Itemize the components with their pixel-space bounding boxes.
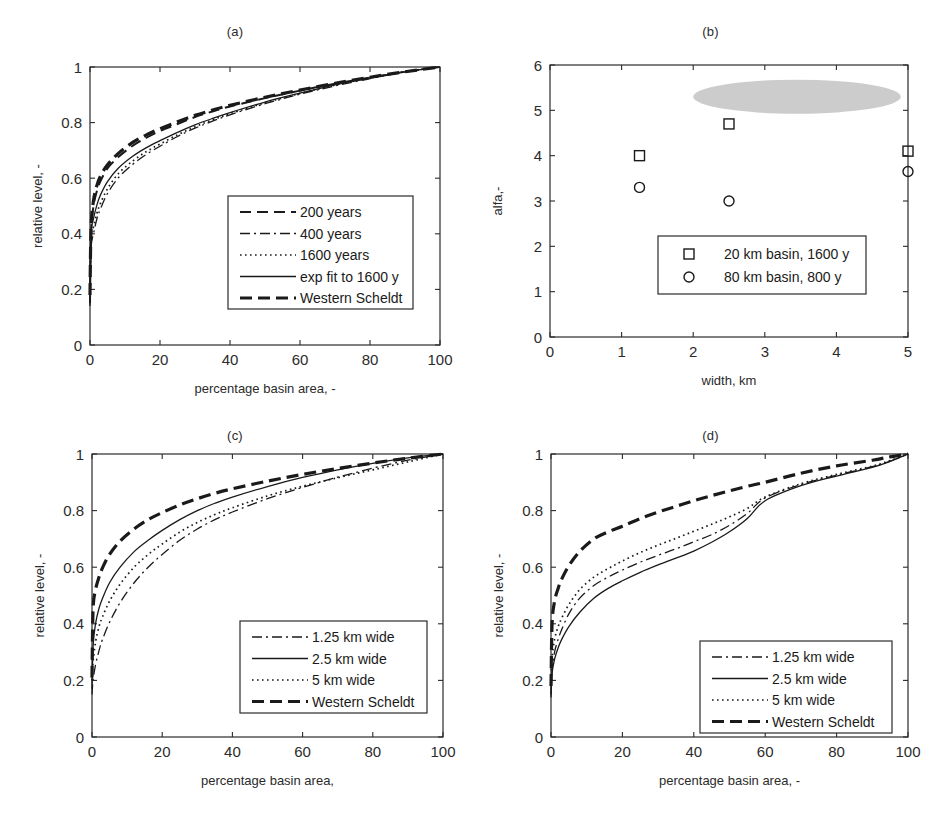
ytick-label-c-2: 0.4 <box>63 615 84 632</box>
ytick-label-d-4: 0.8 <box>522 502 543 519</box>
xtick-label-a-3: 60 <box>292 351 309 368</box>
legend-label-d-3: Western Scheldt <box>772 714 875 730</box>
panel-c-plot-area: 02040608010000.20.40.60.81percentage bas… <box>32 446 456 789</box>
marker-square-b-0-1 <box>724 119 734 129</box>
panel-a-plot-area: 02040608010000.20.40.60.81percentage bas… <box>30 59 453 397</box>
xaxis-label-b: width, km <box>701 373 757 388</box>
legend-label-d-2: 5 km wide <box>772 692 835 708</box>
legend-label-a-4: Western Scheldt <box>300 290 403 306</box>
ytick-label-b-6: 6 <box>534 57 542 74</box>
xtick-label-b-5: 5 <box>904 343 912 360</box>
xtick-label-d-2: 40 <box>685 743 702 760</box>
xtick-label-c-3: 60 <box>294 743 311 760</box>
legend-box-b <box>658 236 866 294</box>
panel-c-axes: 02040608010000.20.40.60.81percentage bas… <box>0 410 470 820</box>
xtick-label-a-0: 0 <box>86 351 94 368</box>
panel-c: (c) 02040608010000.20.40.60.81percentage… <box>0 410 470 820</box>
marker-circle-b-1-0 <box>635 182 645 192</box>
panel-d: (d) 02040608010000.20.40.60.81percentage… <box>470 410 951 820</box>
figure-canvas: (a) 02040608010000.20.40.60.81percentage… <box>0 0 951 820</box>
yaxis-label-a: relative level, - <box>30 164 45 248</box>
ytick-label-c-5: 1 <box>76 446 84 463</box>
legend-label-c-0: 1.25 km wide <box>312 629 395 645</box>
xtick-label-a-1: 20 <box>152 351 169 368</box>
xtick-label-c-2: 40 <box>224 743 241 760</box>
legend-label-b-0: 20 km basin, 1600 y <box>724 246 849 262</box>
xtick-label-a-4: 80 <box>362 351 379 368</box>
xtick-label-b-3: 3 <box>761 343 769 360</box>
ytick-label-c-3: 0.6 <box>63 559 84 576</box>
xtick-label-c-4: 80 <box>364 743 381 760</box>
ytick-label-d-0: 0 <box>535 729 543 746</box>
ytick-label-a-0: 0 <box>74 337 82 354</box>
ytick-label-b-0: 0 <box>534 329 542 346</box>
ytick-label-d-3: 0.6 <box>522 559 543 576</box>
shaded-region-ellipse-b-0 <box>693 80 901 114</box>
ytick-label-c-1: 0.2 <box>63 672 84 689</box>
ytick-label-b-3: 3 <box>534 193 542 210</box>
xaxis-label-a: percentage basin area, - <box>195 381 336 396</box>
xtick-label-d-1: 20 <box>614 743 631 760</box>
ytick-label-a-2: 0.4 <box>61 225 82 242</box>
xtick-label-d-5: 100 <box>895 743 920 760</box>
legend-label-a-2: 1600 years <box>300 247 369 263</box>
ytick-label-c-4: 0.8 <box>63 502 84 519</box>
xtick-label-c-5: 100 <box>430 743 455 760</box>
legend-label-c-3: Western Scheldt <box>312 694 415 710</box>
xtick-label-c-1: 20 <box>154 743 171 760</box>
panel-b: (b) 0123450123456width, kmalfa,-20 km ba… <box>470 0 951 410</box>
legend-label-d-0: 1.25 km wide <box>772 649 855 665</box>
xtick-label-d-4: 80 <box>828 743 845 760</box>
xaxis-label-d: percentage basin area, - <box>659 773 800 788</box>
ytick-label-a-4: 0.8 <box>61 114 82 131</box>
xtick-label-d-0: 0 <box>547 743 555 760</box>
xtick-label-b-4: 4 <box>832 343 840 360</box>
ytick-label-c-0: 0 <box>76 729 84 746</box>
xtick-label-b-1: 1 <box>617 343 625 360</box>
legend-label-a-3: exp fit to 1600 y <box>300 269 399 285</box>
ytick-label-a-3: 0.6 <box>61 170 82 187</box>
yaxis-label-c: relative level, - <box>32 554 47 638</box>
ytick-label-b-5: 5 <box>534 102 542 119</box>
xtick-label-b-2: 2 <box>689 343 697 360</box>
legend-label-b-1: 80 km basin, 800 y <box>724 269 842 285</box>
xtick-label-a-2: 40 <box>222 351 239 368</box>
xtick-label-d-3: 60 <box>757 743 774 760</box>
marker-square-b-0-0 <box>635 151 645 161</box>
legend-label-a-0: 200 years <box>300 204 361 220</box>
xtick-label-b-0: 0 <box>546 343 554 360</box>
yaxis-label-d: relative level, - <box>491 554 506 638</box>
yaxis-label-b: alfa,- <box>490 187 505 216</box>
marker-circle-b-1-1 <box>724 196 734 206</box>
legend-label-a-1: 400 years <box>300 226 361 242</box>
xaxis-label-c: percentage basin area, <box>201 773 334 788</box>
legend-label-c-1: 2.5 km wide <box>312 651 387 667</box>
ytick-label-a-5: 1 <box>74 59 82 76</box>
panel-b-plot-area: 0123450123456width, kmalfa,-20 km basin,… <box>490 57 913 389</box>
xtick-label-a-5: 100 <box>427 351 452 368</box>
legend-label-d-1: 2.5 km wide <box>772 671 847 687</box>
ytick-label-b-1: 1 <box>534 283 542 300</box>
ytick-label-b-4: 4 <box>534 147 542 164</box>
legend-label-c-2: 5 km wide <box>312 672 375 688</box>
panel-d-plot-area: 02040608010000.20.40.60.81percentage bas… <box>491 446 921 789</box>
ytick-label-a-1: 0.2 <box>61 281 82 298</box>
ytick-label-b-2: 2 <box>534 238 542 255</box>
ytick-label-d-2: 0.4 <box>522 615 543 632</box>
panel-d-axes: 02040608010000.20.40.60.81percentage bas… <box>470 410 951 820</box>
ytick-label-d-1: 0.2 <box>522 672 543 689</box>
panel-a: (a) 02040608010000.20.40.60.81percentage… <box>0 0 470 410</box>
ytick-label-d-5: 1 <box>535 446 543 463</box>
panel-a-axes: 02040608010000.20.40.60.81percentage bas… <box>0 0 470 410</box>
panel-b-axes: 0123450123456width, kmalfa,-20 km basin,… <box>470 0 951 410</box>
xtick-label-c-0: 0 <box>88 743 96 760</box>
